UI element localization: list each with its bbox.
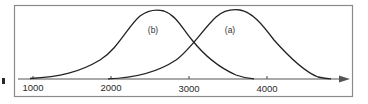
x-tick-label: 3000 xyxy=(178,83,199,94)
x-tick-label: 4000 xyxy=(256,83,277,94)
curve-b xyxy=(30,10,254,79)
x-tick-label: 2000 xyxy=(100,82,121,93)
curve-a xyxy=(108,10,331,79)
distribution-figure: 1000 2000 3000 4000 (b) (a) xyxy=(0,0,368,104)
curve-label-b: (b) xyxy=(148,25,159,35)
curve-label-a: (a) xyxy=(225,25,236,35)
x-tick-label: 1000 xyxy=(22,82,43,93)
margin-mark xyxy=(2,78,5,84)
x-axis: 1000 2000 3000 4000 xyxy=(18,76,350,95)
x-axis-arrowhead-icon xyxy=(339,76,350,83)
